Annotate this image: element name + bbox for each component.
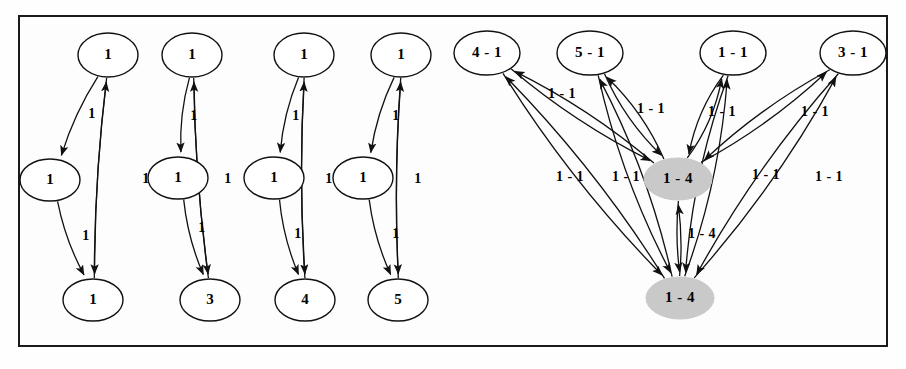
node-c4-middle-shape[interactable] (333, 157, 393, 199)
edge-label-right-4: 1 - 1 (556, 169, 584, 184)
edge-cluster-1-bottom-top (94, 82, 106, 278)
graph-edge (515, 71, 654, 163)
node-c1-middle-shape[interactable] (20, 159, 80, 201)
edge-label-cluster-3-1: 1 (325, 171, 333, 186)
edge-label-cluster-3-2: 1 (294, 226, 302, 241)
graph-edge (511, 69, 650, 161)
edge-label-right-5: 1 - 1 (612, 169, 640, 184)
edge-label-right-8: 1 - 4 (688, 226, 716, 241)
edge-label-cluster-1-2: 1 (82, 228, 90, 243)
node-c1-bottom-shape[interactable] (63, 279, 123, 321)
node-c4-bottom-shape[interactable] (368, 279, 428, 321)
edge-label-right-0: 1 - 1 (548, 86, 576, 101)
node-hub-top-shape[interactable] (644, 158, 712, 200)
node-c1-top-shape[interactable] (78, 33, 138, 77)
edge-cluster-2-top-middle (181, 78, 190, 152)
node-c2-top-shape[interactable] (162, 33, 222, 77)
edge-label-cluster-2-0: 1 (190, 108, 198, 123)
edge-label-cluster-1-0: 1 (88, 106, 96, 121)
edge-label-cluster-2-2: 1 (198, 220, 206, 235)
edge-label-cluster-2-1: 1 (224, 171, 232, 186)
edge-cluster-1-middle-bottom (58, 201, 84, 275)
edge-cluster-1-top-bottom (95, 78, 107, 274)
node-hub-bot-shape[interactable] (646, 277, 714, 319)
edge-label-cluster-4-2: 1 (392, 226, 400, 241)
node-c2-middle-shape[interactable] (148, 157, 208, 199)
node-r-5-1-shape[interactable] (557, 31, 623, 75)
node-c3-top-shape[interactable] (274, 33, 334, 77)
node-c2-bottom-shape[interactable] (180, 279, 240, 321)
node-c3-middle-shape[interactable] (244, 157, 304, 199)
node-r-3-1-shape[interactable] (820, 31, 886, 75)
edge-label-right-6: 1 - 1 (752, 167, 780, 182)
edge-label-cluster-4-0: 1 (392, 108, 400, 123)
edge-label-cluster-1-1: 1 (142, 171, 150, 186)
edge-cluster-4-middle-bottom (369, 200, 391, 275)
edge-cluster-4-top-middle (371, 77, 394, 152)
edge-label-cluster-3-0: 1 (292, 108, 300, 123)
node-c4-top-shape[interactable] (371, 33, 431, 77)
edge-label-right-2: 1 - 1 (708, 104, 736, 119)
node-r-4-1-shape[interactable] (454, 31, 520, 75)
edge-label-cluster-4-1: 1 (414, 171, 422, 186)
figure-page: 1111131141154 - 15 - 11 - 13 - 11 - 41 -… (0, 0, 906, 369)
graph-edge (607, 77, 664, 159)
edge-label-right-1: 1 - 1 (637, 101, 665, 116)
edge-label-right-7: 1 - 1 (815, 169, 843, 184)
node-r-1-1-shape[interactable] (700, 31, 766, 75)
edge-label-right-3: 1 - 1 (801, 104, 829, 119)
graph-canvas: 1111131141154 - 15 - 11 - 13 - 11 - 41 -… (0, 0, 906, 369)
node-c3-bottom-shape[interactable] (275, 279, 335, 321)
